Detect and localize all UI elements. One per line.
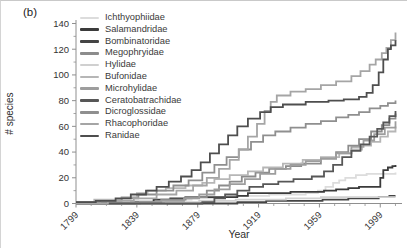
- legend-label: Ceratobatrachidae: [105, 95, 182, 107]
- legend-swatch: [80, 52, 99, 55]
- legend: IchthyophiidaeSalamandridaeBombinatorida…: [80, 12, 182, 142]
- legend-swatch: [80, 87, 99, 90]
- legend-swatch: [80, 17, 99, 20]
- legend-swatch: [80, 111, 99, 114]
- legend-swatch: [80, 99, 99, 102]
- legend-label: Ranidae: [105, 130, 140, 142]
- chart-canvas: 0204060801001201401799183918791919195919…: [1, 1, 407, 248]
- legend-label: Microhylidae: [105, 83, 157, 95]
- legend-item: Microhylidae: [80, 83, 182, 95]
- legend-label: Dicroglossidae: [105, 106, 166, 118]
- legend-item: Bufonidae: [80, 71, 182, 83]
- y-tick-label: 80: [58, 95, 69, 106]
- legend-label: Salamandridae: [105, 24, 168, 36]
- figure-panel: (b) # species 02040608010012014017991839…: [0, 0, 407, 248]
- y-tick-label: 120: [53, 44, 69, 55]
- y-tick-label: 40: [58, 146, 69, 157]
- legend-swatch: [80, 64, 99, 67]
- legend-item: Salamandridae: [80, 24, 182, 36]
- legend-swatch: [80, 135, 99, 138]
- y-tick-label: 60: [58, 121, 69, 132]
- legend-item: Ranidae: [80, 130, 182, 142]
- y-tick-label: 0: [64, 198, 69, 209]
- legend-label: Ichthyophiidae: [105, 12, 165, 24]
- legend-swatch: [80, 76, 99, 79]
- x-axis-label: Year: [76, 228, 402, 240]
- legend-item: Ichthyophiidae: [80, 12, 182, 24]
- legend-label: Bufonidae: [105, 71, 147, 83]
- legend-item: Rhacophoridae: [80, 118, 182, 130]
- legend-swatch: [80, 123, 99, 126]
- legend-label: Hylidae: [105, 59, 136, 71]
- legend-label: Megophryidae: [105, 47, 164, 59]
- legend-item: Dicroglossidae: [80, 106, 182, 118]
- legend-item: Hylidae: [80, 59, 182, 71]
- legend-label: Bombinatoridae: [105, 36, 170, 48]
- legend-item: Megophryidae: [80, 47, 182, 59]
- legend-swatch: [80, 40, 99, 43]
- legend-label: Rhacophoridae: [105, 118, 168, 130]
- legend-item: Bombinatoridae: [80, 36, 182, 48]
- legend-swatch: [80, 28, 99, 31]
- y-tick-label: 140: [53, 18, 69, 29]
- y-tick-label: 20: [58, 172, 69, 183]
- legend-item: Ceratobatrachidae: [80, 95, 182, 107]
- y-tick-label: 100: [53, 69, 69, 80]
